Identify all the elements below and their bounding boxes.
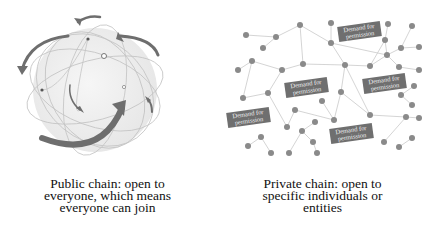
private-chain-panel: Demand for permission Demand for permiss… bbox=[215, 0, 430, 230]
public-chain-caption: Public chain: open to everyone, which me… bbox=[0, 178, 215, 214]
globe-icon bbox=[0, 0, 215, 178]
public-chain-panel: Public chain: open to everyone, which me… bbox=[0, 0, 215, 230]
caption-line: everyone can join bbox=[0, 202, 215, 214]
caption-line: entities bbox=[215, 202, 430, 214]
private-chain-caption: Private chain: open to specific individu… bbox=[215, 178, 430, 214]
